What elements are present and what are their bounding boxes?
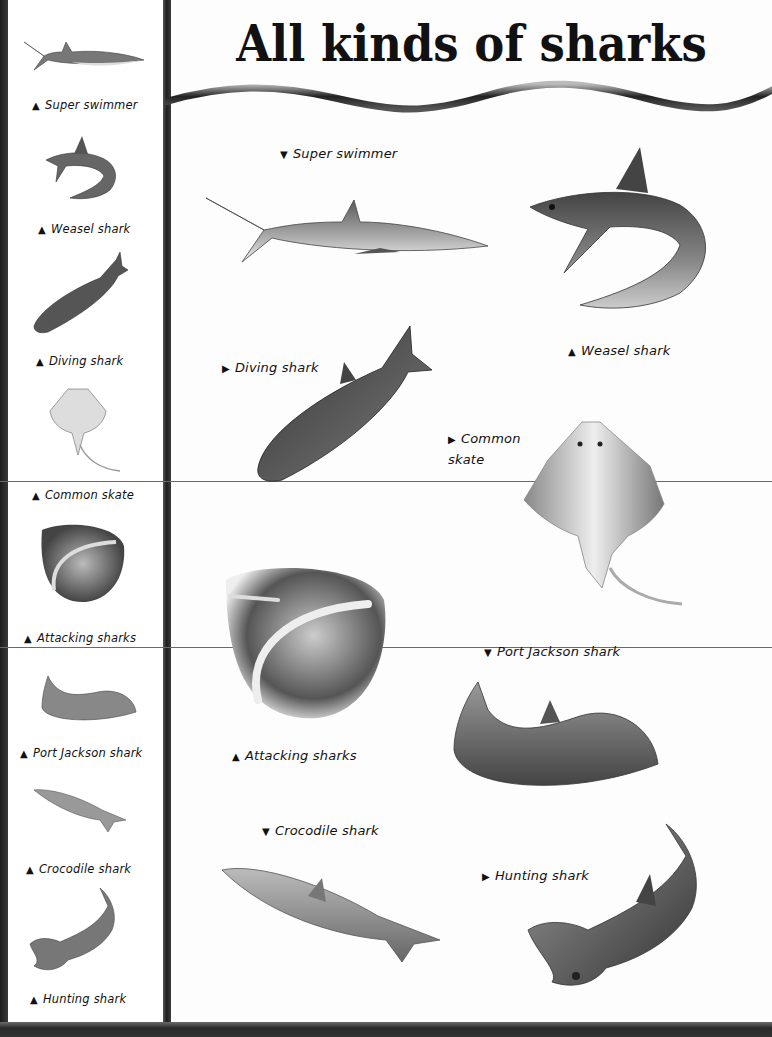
bottom-band <box>0 1022 772 1037</box>
up-arrow-icon: ▲ <box>568 346 576 357</box>
main-sticker-weasel-shark[interactable] <box>530 145 720 310</box>
right-arrow-icon: ▶ <box>222 363 230 374</box>
perforation-spine <box>163 0 171 1022</box>
attacking-sharks-icon <box>36 520 128 605</box>
up-arrow-icon: ▲ <box>30 994 38 1005</box>
sidebar-sticker-diving-shark[interactable] <box>30 250 130 335</box>
sidebar-sticker-port-jackson-shark[interactable] <box>38 668 138 724</box>
sidebar-label-weasel-shark: ▲Weasel shark <box>38 222 130 236</box>
down-arrow-icon: ▼ <box>484 647 492 658</box>
sidebar-sticker-weasel-shark[interactable] <box>44 134 124 204</box>
sidebar-sticker-super-swimmer[interactable] <box>22 38 148 74</box>
down-arrow-icon: ▼ <box>280 149 288 160</box>
main-sticker-diving-shark[interactable] <box>252 324 434 484</box>
diving-shark-icon <box>30 250 130 335</box>
wave-divider <box>165 70 772 120</box>
sidebar-label-common-skate: ▲Common skate <box>32 488 134 502</box>
weasel-shark-icon <box>530 145 720 310</box>
common-skate-icon <box>520 418 686 610</box>
attacking-sharks-icon <box>218 560 390 722</box>
sidebar-sticker-common-skate[interactable] <box>42 385 122 475</box>
up-arrow-icon: ▲ <box>32 100 40 111</box>
up-arrow-icon: ▲ <box>26 864 34 875</box>
crocodile-shark-icon <box>218 856 444 966</box>
page-edge <box>0 0 8 1037</box>
right-arrow-icon: ▶ <box>448 434 456 445</box>
common-skate-icon <box>42 385 122 475</box>
weasel-shark-icon <box>44 134 124 204</box>
main-sticker-common-skate[interactable] <box>520 418 686 610</box>
main-sticker-port-jackson-shark[interactable] <box>450 680 662 798</box>
main-label-weasel-shark: ▲Weasel shark <box>568 343 670 358</box>
page-title: All kinds of sharks <box>171 14 772 73</box>
sidebar-sticker-hunting-shark[interactable] <box>28 886 120 974</box>
super-swimmer-shark-icon <box>22 38 148 74</box>
hunting-shark-icon <box>526 822 704 990</box>
main-sticker-attacking-sharks[interactable] <box>218 560 390 722</box>
sidebar-label-port-jackson-shark: ▲Port Jackson shark <box>20 746 142 760</box>
sidebar-sticker-attacking-sharks[interactable] <box>36 520 128 605</box>
main-label-crocodile-shark: ▼Crocodile shark <box>262 823 379 838</box>
main-sticker-hunting-shark[interactable] <box>526 822 704 990</box>
sidebar-label-diving-shark: ▲Diving shark <box>36 354 123 368</box>
up-arrow-icon: ▲ <box>36 356 44 367</box>
port-jackson-shark-icon <box>450 680 662 798</box>
sidebar-label-crocodile-shark: ▲Crocodile shark <box>26 862 131 876</box>
right-arrow-icon: ▶ <box>482 871 490 882</box>
port-jackson-shark-icon <box>38 668 138 724</box>
sidebar-sticker-crocodile-shark[interactable] <box>32 784 130 836</box>
sidebar-label-hunting-shark: ▲Hunting shark <box>30 992 126 1006</box>
main-label-common-skate: ▶Commonskate <box>448 429 521 470</box>
up-arrow-icon: ▲ <box>24 633 32 644</box>
main-label-port-jackson-shark: ▼Port Jackson shark <box>484 644 620 659</box>
up-arrow-icon: ▲ <box>232 751 240 762</box>
up-arrow-icon: ▲ <box>32 490 40 501</box>
up-arrow-icon: ▲ <box>38 224 46 235</box>
super-swimmer-shark-icon <box>204 196 490 266</box>
main-sticker-crocodile-shark[interactable] <box>218 856 444 966</box>
down-arrow-icon: ▼ <box>262 826 270 837</box>
crocodile-shark-icon <box>32 784 130 836</box>
hunting-shark-icon <box>28 886 120 974</box>
diving-shark-icon <box>252 324 434 484</box>
sidebar-label-attacking-sharks: ▲Attacking sharks <box>24 631 136 645</box>
main-label-super-swimmer: ▼Super swimmer <box>280 146 397 161</box>
sidebar-label-super-swimmer: ▲Super swimmer <box>32 98 138 112</box>
up-arrow-icon: ▲ <box>20 748 28 759</box>
main-label-attacking-sharks: ▲Attacking sharks <box>232 748 357 763</box>
main-sticker-super-swimmer[interactable] <box>204 196 490 266</box>
